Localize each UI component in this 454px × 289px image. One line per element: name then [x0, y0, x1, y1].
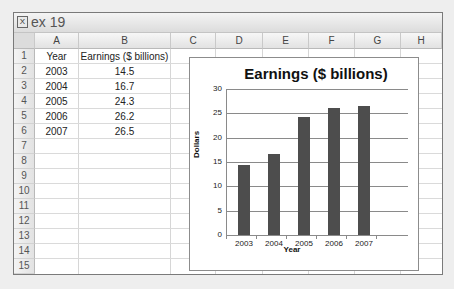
x-axis-line	[226, 235, 408, 236]
y-tick: 15	[202, 157, 222, 166]
cell-b6[interactable]: 26.5	[79, 124, 170, 139]
column-header-e[interactable]: E	[263, 33, 309, 49]
cell-a2[interactable]: 2003	[35, 64, 78, 79]
row-header-10[interactable]: 10	[14, 184, 35, 199]
excel-workbook-icon: X	[17, 16, 28, 28]
gridline-25	[226, 113, 408, 114]
column-header-a[interactable]: A	[35, 33, 79, 49]
y-tick: 20	[202, 133, 222, 142]
y-axis-line	[226, 89, 227, 235]
cell-a3[interactable]: 2004	[35, 79, 78, 94]
row-header-15[interactable]: 15	[14, 259, 35, 274]
column-header-f[interactable]: F	[309, 33, 355, 49]
bar-2005[interactable]	[298, 117, 310, 235]
row-header-3[interactable]: 3	[14, 79, 35, 94]
bar-2006[interactable]	[328, 108, 340, 236]
cell-b2[interactable]: 14.5	[79, 64, 170, 79]
spreadsheet-window: X ex 19 A B C D E F G H 1 2 3 4 5 6 7 8 …	[13, 12, 443, 275]
bar-2004[interactable]	[268, 154, 280, 235]
row-header-13[interactable]: 13	[14, 229, 35, 244]
gridline-15	[226, 162, 408, 163]
x-tick-mark	[226, 235, 227, 239]
cell-a1[interactable]: Year	[35, 49, 78, 64]
row-header-14[interactable]: 14	[14, 244, 35, 259]
row-header-6[interactable]: 6	[14, 124, 35, 139]
row-header-9[interactable]: 9	[14, 169, 35, 184]
y-tick: 30	[202, 84, 222, 93]
row-header-7[interactable]: 7	[14, 139, 35, 154]
cell-b5[interactable]: 26.2	[79, 109, 170, 124]
title-bar: X ex 19	[14, 13, 442, 33]
bar-2003[interactable]	[238, 165, 250, 236]
y-axis-label: Dollars	[192, 131, 201, 158]
y-tick: 10	[202, 181, 222, 190]
column-header-c[interactable]: C	[171, 33, 216, 49]
y-tick: 25	[202, 108, 222, 117]
column-header-h[interactable]: H	[401, 33, 442, 49]
cell-a6[interactable]: 2007	[35, 124, 78, 139]
cell-b3[interactable]: 16.7	[79, 79, 170, 94]
y-tick: 0	[202, 230, 222, 239]
x-axis-label: Year	[178, 245, 406, 254]
gridline-10	[226, 186, 408, 187]
row-header-2[interactable]: 2	[14, 64, 35, 79]
row-header-11[interactable]: 11	[14, 199, 35, 214]
earnings-bar-chart[interactable]: Earnings ($ billions) Dollars 30 25 20 1…	[189, 57, 419, 271]
cell-b4[interactable]: 24.3	[79, 94, 170, 109]
row-header-12[interactable]: 12	[14, 214, 35, 229]
gridline-30	[226, 89, 408, 90]
window-title: ex 19	[31, 14, 65, 30]
column-header-d[interactable]: D	[216, 33, 263, 49]
bar-2007[interactable]	[358, 106, 370, 235]
row-header-1[interactable]: 1	[14, 49, 35, 64]
y-tick: 5	[202, 206, 222, 215]
chart-title: Earnings ($ billions)	[190, 65, 418, 82]
row-header-8[interactable]: 8	[14, 154, 35, 169]
plot-area: 30 25 20 15 10 5 0 2003 2004 2005 2006 2…	[226, 89, 408, 235]
row-header-5[interactable]: 5	[14, 109, 35, 124]
select-all-corner[interactable]	[14, 33, 35, 49]
column-header-g[interactable]: G	[355, 33, 401, 49]
column-header-b[interactable]: B	[79, 33, 171, 49]
row-header-4[interactable]: 4	[14, 94, 35, 109]
gridline-20	[226, 138, 408, 139]
gridline-5	[226, 211, 408, 212]
cell-a5[interactable]: 2006	[35, 109, 78, 124]
gridline	[170, 49, 171, 274]
cell-a4[interactable]: 2005	[35, 94, 78, 109]
cell-b1[interactable]: Earnings ($ billions)	[79, 49, 170, 64]
